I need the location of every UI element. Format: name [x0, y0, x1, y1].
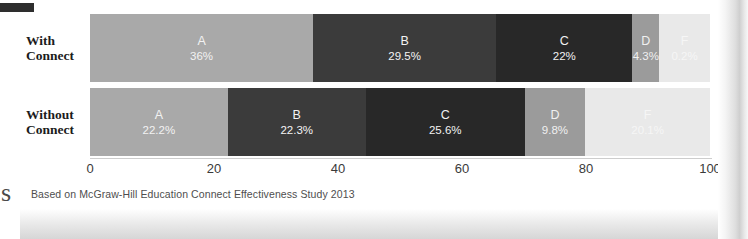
x-axis-tick: 0: [86, 161, 93, 176]
segment-letter: A: [155, 108, 163, 123]
bar-segment-a: A22.2%: [90, 88, 228, 156]
page-bottom-shadow: [20, 209, 720, 239]
segment-letter: B: [400, 34, 408, 49]
segment-value: 22%: [553, 49, 576, 63]
chart-source-caption: Based on McGraw-Hill Education Connect E…: [31, 188, 355, 200]
page-right-edge: [718, 0, 748, 239]
segment-letter: F: [644, 108, 652, 123]
segment-value: 36%: [190, 49, 213, 63]
segment-letter: A: [197, 34, 205, 49]
segment-letter: B: [293, 108, 301, 123]
segment-letter: D: [550, 108, 559, 123]
row-label-line2: Connect: [26, 122, 74, 137]
x-axis-line: [90, 158, 712, 159]
row-label-line2: Connect: [26, 48, 74, 63]
bar-segment-a: A36%: [90, 14, 313, 82]
x-axis-tick: 80: [579, 161, 593, 176]
bar-segment-b: B22.3%: [228, 88, 366, 156]
bar-segment-b: B29.5%: [313, 14, 496, 82]
bar-segment-d: D4.3%: [632, 14, 659, 82]
scanned-page: s With Connect A36%B29.5%C22%D4.3%F0.2% …: [0, 0, 748, 239]
row-label-line1: Without: [26, 107, 74, 122]
stacked-bar-chart: With Connect A36%B29.5%C22%D4.3%F0.2% Wi…: [0, 0, 718, 205]
row-label-line1: With: [26, 33, 55, 48]
segment-value: 25.6%: [429, 123, 462, 137]
segment-value: 0.2%: [671, 49, 697, 63]
x-axis-tick: 60: [455, 161, 469, 176]
segment-value: 22.3%: [280, 123, 313, 137]
bar-segment-c: C25.6%: [366, 88, 525, 156]
bar-segment-c: C22%: [496, 14, 632, 82]
row-label-with-connect: With Connect: [26, 33, 88, 63]
segment-value: 4.3%: [633, 49, 659, 63]
bar-segment-f: F0.2%: [659, 14, 710, 82]
segment-letter: F: [681, 34, 689, 49]
segment-letter: C: [560, 34, 569, 49]
segment-value: 9.8%: [542, 123, 568, 137]
bar-segment-f: F20.1%: [585, 88, 710, 156]
chart-row-without-connect: Without Connect A22.2%B22.3%C25.6%D9.8%F…: [0, 88, 718, 156]
segment-value: 20.1%: [631, 123, 664, 137]
x-axis-tick: 40: [331, 161, 345, 176]
segment-letter: C: [441, 108, 450, 123]
segment-value: 22.2%: [143, 123, 176, 137]
x-axis-tick: 20: [207, 161, 221, 176]
bar-without-connect: A22.2%B22.3%C25.6%D9.8%F20.1%: [90, 88, 710, 156]
segment-value: 29.5%: [388, 49, 421, 63]
segment-letter: D: [641, 34, 650, 49]
row-label-without-connect: Without Connect: [26, 107, 88, 137]
x-axis-ticks: 020406080100: [90, 161, 710, 183]
chart-row-with-connect: With Connect A36%B29.5%C22%D4.3%F0.2%: [0, 14, 718, 82]
bar-with-connect: A36%B29.5%C22%D4.3%F0.2%: [90, 14, 710, 82]
bar-segment-d: D9.8%: [525, 88, 586, 156]
